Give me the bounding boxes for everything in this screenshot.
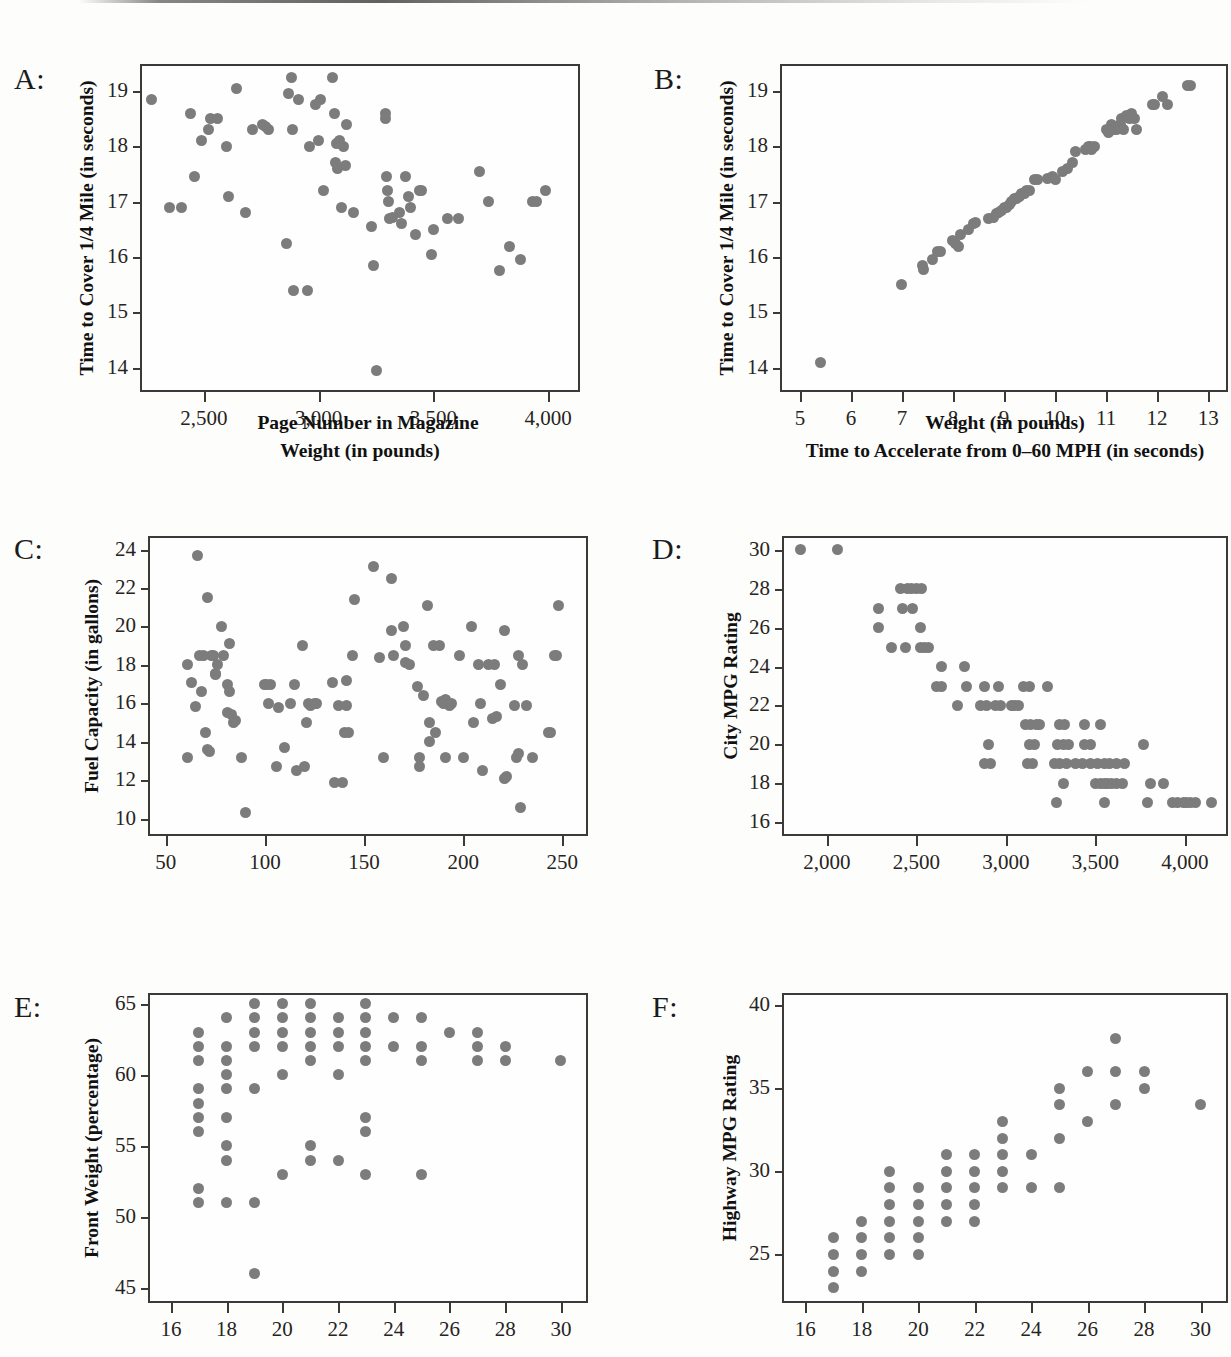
data-point <box>422 600 433 611</box>
data-point <box>416 1055 427 1066</box>
data-point <box>1095 778 1106 789</box>
data-point <box>341 675 352 686</box>
data-point <box>444 700 455 711</box>
data-point <box>193 1055 204 1066</box>
data-point <box>332 163 343 174</box>
data-point <box>1054 758 1065 769</box>
data-point <box>440 752 451 763</box>
data-point <box>360 1126 371 1137</box>
data-point <box>884 1216 895 1227</box>
data-point <box>1067 157 1078 168</box>
y-tick-b-0 <box>773 368 782 370</box>
data-point <box>913 1232 924 1243</box>
data-point <box>1022 758 1033 769</box>
data-point <box>249 1027 260 1038</box>
data-point <box>440 694 451 705</box>
x-tick-label-d-2: 3,000 <box>968 850 1044 875</box>
data-point <box>1129 113 1140 124</box>
data-point <box>917 260 928 271</box>
y-tick-label-d-7: 30 <box>722 537 770 562</box>
data-point <box>1099 778 1110 789</box>
data-point <box>398 621 409 632</box>
data-point <box>963 224 974 235</box>
figure-page: A:Time to Cover 1/4 Mile (in seconds)Wei… <box>0 0 1231 1357</box>
y-tick-label-c-1: 12 <box>88 767 136 792</box>
y-tick-d-0 <box>775 822 784 824</box>
data-point <box>333 1027 344 1038</box>
data-point <box>208 650 219 661</box>
data-point <box>360 1027 371 1038</box>
data-point <box>1070 758 1081 769</box>
x-tick-b-7 <box>1157 392 1159 402</box>
y-tick-a-2 <box>133 257 142 259</box>
data-point <box>1027 758 1038 769</box>
data-point <box>230 715 241 726</box>
data-point <box>193 1126 204 1137</box>
x-tick-label-f-5: 26 <box>1050 1317 1126 1342</box>
data-point <box>988 212 999 223</box>
data-point <box>305 1140 316 1151</box>
panel-c: C:Fuel Capacity (in gallons)Page Number … <box>0 0 1231 1357</box>
y-tick-label-e-3: 60 <box>88 1062 136 1087</box>
x-tick-b-5 <box>1055 392 1057 402</box>
data-point <box>941 1216 952 1227</box>
y-tick-e-2 <box>141 1146 150 1148</box>
data-point <box>1080 144 1091 155</box>
data-point <box>935 246 946 257</box>
data-point <box>331 138 342 149</box>
data-point <box>1011 193 1022 204</box>
data-point <box>1077 758 1088 769</box>
data-point <box>1047 171 1058 182</box>
data-point <box>380 113 391 124</box>
y-tick-f-3 <box>775 1005 784 1007</box>
y-tick-e-0 <box>141 1288 150 1290</box>
x-tick-label-a-3: 4,000 <box>510 406 586 431</box>
x-tick-label-c-0: 50 <box>128 850 204 875</box>
data-point <box>1006 700 1017 711</box>
y-tick-label-c-0: 10 <box>88 806 136 831</box>
data-point <box>997 1133 1008 1144</box>
y-tick-b-4 <box>773 146 782 148</box>
data-point <box>1058 778 1069 789</box>
data-point <box>961 681 972 692</box>
y-tick-label-a-4: 18 <box>80 133 128 158</box>
data-point <box>249 1083 260 1094</box>
data-point <box>515 254 526 265</box>
panel-letter-d: D: <box>652 532 683 566</box>
plot-area-f: 253035401618202224262830 <box>782 993 1228 1303</box>
y-tick-label-d-5: 26 <box>722 615 770 640</box>
data-point <box>249 998 260 1009</box>
data-point <box>1085 141 1096 152</box>
data-point <box>305 1012 316 1023</box>
data-point <box>360 998 371 1009</box>
data-point <box>261 679 272 690</box>
data-point <box>828 1249 839 1260</box>
data-point <box>913 1182 924 1193</box>
data-point <box>969 1166 980 1177</box>
y-tick-label-b-1: 15 <box>720 299 768 324</box>
x-tick-label-c-2: 150 <box>326 850 402 875</box>
data-point <box>997 1182 1008 1193</box>
data-point <box>975 700 986 711</box>
y-tick-label-f-1: 30 <box>722 1158 770 1183</box>
x-tick-d-2 <box>1006 836 1008 846</box>
y-tick-label-e-0: 45 <box>88 1275 136 1300</box>
data-point <box>1083 141 1094 152</box>
data-point <box>475 698 486 709</box>
x-tick-label-d-0: 2,000 <box>789 850 865 875</box>
data-point <box>509 700 520 711</box>
data-point <box>1195 1099 1206 1110</box>
data-point <box>1149 99 1160 110</box>
y-tick-label-b-2: 16 <box>720 244 768 269</box>
y-tick-c-7 <box>141 550 150 552</box>
data-point <box>915 642 926 653</box>
data-point <box>193 1083 204 1094</box>
data-point <box>206 650 217 661</box>
data-point <box>906 583 917 594</box>
y-tick-c-3 <box>141 703 150 705</box>
data-point <box>339 727 350 738</box>
data-point <box>182 659 193 670</box>
data-point <box>416 1012 427 1023</box>
data-point <box>521 700 532 711</box>
x-tick-a-3 <box>548 392 550 402</box>
